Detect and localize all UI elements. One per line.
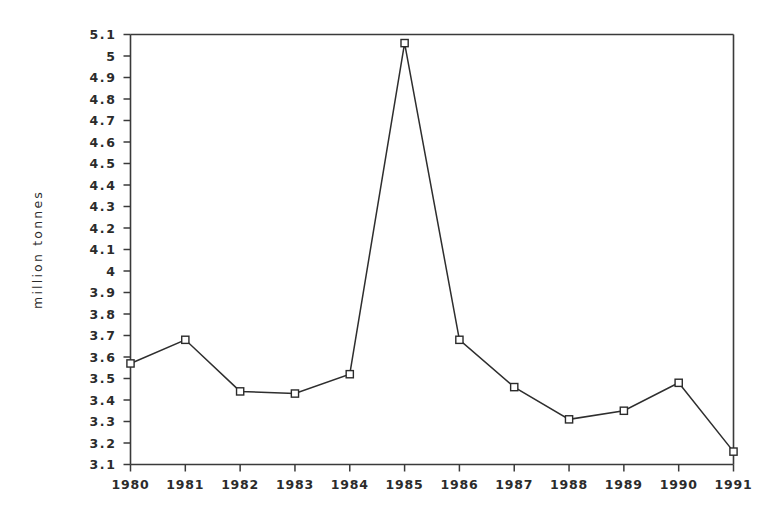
data-point-marker	[401, 40, 408, 47]
y-axis-tick-label: 3.9	[90, 285, 117, 300]
y-axis-title: million tonnes	[30, 190, 45, 309]
y-axis-tick-label: 4.3	[90, 199, 117, 214]
data-point-marker	[291, 390, 298, 397]
y-axis-tick-label: 3.4	[90, 393, 117, 408]
y-axis-tick-label: 3.2	[90, 436, 117, 451]
y-axis-tick-label: 4.9	[90, 70, 117, 85]
data-series-line	[131, 43, 734, 452]
x-axis-tick-label: 1987	[495, 477, 533, 492]
y-axis-tick-label: 4	[106, 264, 116, 279]
y-axis-tick-label: 4.2	[90, 221, 117, 236]
y-axis-tick-label: 4.5	[90, 156, 117, 171]
data-point-marker	[182, 336, 189, 343]
data-point-marker	[346, 371, 353, 378]
data-point-markers	[127, 40, 737, 456]
x-axis-tick-label: 1983	[276, 477, 314, 492]
data-point-marker	[511, 384, 518, 391]
x-axis-tick-label: 1989	[605, 477, 643, 492]
y-axis-tick-label: 4.1	[90, 242, 117, 257]
y-axis-tick-label: 4.6	[90, 135, 117, 150]
y-axis-tick-label: 3.5	[90, 371, 117, 386]
x-axis-tick-label: 1988	[550, 477, 588, 492]
y-axis-tick-label: 4.8	[90, 92, 117, 107]
data-point-marker	[730, 448, 737, 455]
x-axis-tick-label: 1986	[440, 477, 478, 492]
y-axis-tick-label: 3.8	[90, 307, 117, 322]
data-point-marker	[127, 360, 134, 367]
x-axis-tick-label: 1981	[166, 477, 204, 492]
data-point-marker	[237, 388, 244, 395]
y-axis-tick-label: 4.7	[90, 113, 117, 128]
y-axis-tick-label: 3.6	[90, 350, 117, 365]
y-axis-tick-label: 5	[106, 49, 116, 64]
x-axis-tick-labels: 1980198119821983198419851986198719881989…	[112, 477, 753, 492]
data-point-marker	[456, 336, 463, 343]
y-axis-tick-label: 3.7	[90, 328, 117, 343]
y-axis-tick-labels: 3.13.23.33.43.53.63.73.83.944.14.24.34.4…	[90, 27, 117, 472]
y-axis-tick-label: 4.4	[90, 178, 117, 193]
y-axis-tick-label: 3.1	[90, 457, 117, 472]
plot-frame	[131, 35, 734, 465]
x-axis-tick-marks	[131, 465, 734, 472]
y-axis-tick-label: 5.1	[90, 27, 117, 42]
line-chart: 3.13.23.33.43.53.63.73.83.944.14.24.34.4…	[0, 0, 784, 508]
x-axis-tick-label: 1990	[660, 477, 698, 492]
x-axis-tick-label: 1980	[112, 477, 150, 492]
y-axis-tick-label: 3.3	[90, 414, 117, 429]
x-axis-tick-label: 1984	[331, 477, 369, 492]
data-point-marker	[565, 416, 572, 423]
x-axis-tick-label: 1982	[221, 477, 259, 492]
data-point-marker	[675, 379, 682, 386]
y-axis-tick-marks	[124, 35, 131, 465]
x-axis-tick-label: 1985	[386, 477, 424, 492]
chart-canvas: 3.13.23.33.43.53.63.73.83.944.14.24.34.4…	[0, 0, 784, 508]
data-point-marker	[620, 407, 627, 414]
x-axis-tick-label: 1991	[715, 477, 753, 492]
